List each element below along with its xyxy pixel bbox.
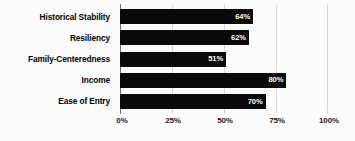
x-tick-label: 50% [217,116,233,125]
bar-value-label: 62% [231,34,246,42]
bar-value-label: 51% [208,55,223,63]
x-tick-label: 100% [319,116,339,125]
bar-value-label: 80% [268,76,283,84]
horizontal-bar-chart: Historical Stability Resiliency Family-C… [0,0,355,141]
bar: 51% [120,52,226,67]
bar: 64% [120,9,253,24]
bar-row: 80% [120,70,328,91]
x-tick-label: 0% [116,116,127,125]
x-axis: 0% 25% 50% 75% 100% [120,116,328,130]
category-label: Resiliency [0,27,114,48]
category-label: Income [0,70,114,91]
bar: 80% [120,73,286,88]
x-tick-label: 25% [165,116,181,125]
bar-row: 70% [120,91,328,112]
category-label-axis: Historical Stability Resiliency Family-C… [0,6,114,112]
bar-row: 62% [120,27,328,48]
bar-value-label: 70% [248,98,263,106]
plot-area: 64% 62% 51% 80% 70% [120,4,328,114]
bar-row: 64% [120,6,328,27]
category-label: Family-Centeredness [0,48,114,69]
bar-series: 64% 62% 51% 80% 70% [120,6,328,112]
category-label: Historical Stability [0,6,114,27]
bar: 70% [120,94,266,109]
bar-row: 51% [120,48,328,69]
bar-value-label: 64% [235,13,250,21]
bar: 62% [120,30,249,45]
x-tick-label: 75% [269,116,285,125]
category-label: Ease of Entry [0,91,114,112]
